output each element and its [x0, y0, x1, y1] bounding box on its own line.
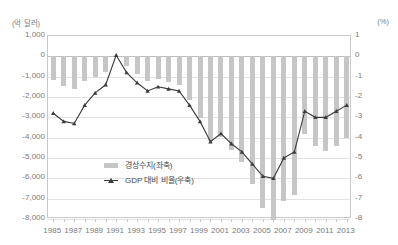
line-marker-triangle — [345, 103, 349, 107]
legend-bar-swatch-icon — [104, 163, 118, 168]
chart-container: (억 달러) (%) 1,0000-1,000-2,000-3,000-4,00… — [0, 0, 398, 245]
legend-item-current-account: 경상수지(좌축) — [104, 158, 194, 173]
x-tick-mark — [252, 219, 253, 222]
plot-area — [47, 35, 351, 218]
x-tick-mark — [179, 219, 180, 222]
line-series-gdp-ratio — [48, 36, 352, 219]
x-tick-mark — [106, 219, 107, 222]
right-axis-tick: -2 — [355, 92, 381, 100]
left-axis-tick: -8,000 — [5, 214, 45, 222]
left-axis-tick: -4,000 — [5, 133, 45, 141]
legend-label-current-account: 경상수지(좌축) — [125, 158, 172, 173]
x-tick-mark — [210, 219, 211, 222]
right-axis-tick: -1 — [355, 72, 381, 80]
right-axis-tick: 1 — [355, 31, 381, 39]
x-tick-mark — [284, 219, 285, 222]
line-marker-triangle — [334, 109, 338, 113]
x-tick-mark — [231, 219, 232, 222]
legend-item-gdp-ratio: GDP 대비 비율(우축) — [104, 173, 194, 188]
x-tick-mark — [315, 219, 316, 222]
line-marker-triangle — [103, 83, 107, 87]
left-axis-tick: -6,000 — [5, 173, 45, 181]
x-tick-mark — [305, 219, 306, 222]
line-marker-triangle — [219, 131, 223, 135]
legend-label-gdp-ratio: GDP 대비 비율(우축) — [125, 173, 194, 188]
right-axis-tick: -8 — [355, 214, 381, 222]
right-axis-tick: 0 — [355, 51, 381, 59]
line-marker-triangle — [51, 111, 55, 115]
x-tick-mark — [336, 219, 337, 222]
left-axis-tick: -5,000 — [5, 153, 45, 161]
x-tick-mark — [242, 219, 243, 222]
left-axis-unit-label: (억 달러) — [12, 17, 40, 28]
x-tick-mark — [263, 219, 264, 222]
x-tick-mark — [273, 219, 274, 222]
x-tick-mark — [85, 219, 86, 222]
chart-legend: 경상수지(좌축) GDP 대비 비율(우축) — [104, 158, 194, 188]
right-axis-tick: -6 — [355, 173, 381, 181]
right-axis-tick: -7 — [355, 194, 381, 202]
x-tick-mark — [74, 219, 75, 222]
left-axis-tick: 1,000 — [5, 31, 45, 39]
gdp-ratio-line — [53, 55, 347, 178]
left-axis-tick: -3,000 — [5, 112, 45, 120]
right-axis-unit-label: (%) — [377, 17, 389, 26]
right-axis-tick: -5 — [355, 153, 381, 161]
x-tick-mark — [137, 219, 138, 222]
legend-line-triangle-swatch-icon — [104, 177, 118, 185]
x-tick-mark — [294, 219, 295, 222]
x-tick-mark — [347, 219, 348, 222]
x-tick-mark — [148, 219, 149, 222]
left-axis-tick: -2,000 — [5, 92, 45, 100]
left-axis-tick: -1,000 — [5, 72, 45, 80]
right-axis-tick: -4 — [355, 133, 381, 141]
x-axis-tick: 2013 — [333, 227, 359, 235]
x-tick-mark — [53, 219, 54, 222]
right-axis-tick: -3 — [355, 112, 381, 120]
x-tick-mark — [158, 219, 159, 222]
x-tick-mark — [95, 219, 96, 222]
line-marker-triangle — [292, 150, 296, 154]
x-tick-mark — [200, 219, 201, 222]
x-tick-mark — [190, 219, 191, 222]
x-tick-mark — [64, 219, 65, 222]
left-axis-tick: 0 — [5, 51, 45, 59]
line-marker-triangle — [303, 109, 307, 113]
x-tick-mark — [116, 219, 117, 222]
line-marker-triangle — [282, 156, 286, 160]
x-tick-mark — [169, 219, 170, 222]
left-axis-tick: -7,000 — [5, 194, 45, 202]
x-tick-mark — [326, 219, 327, 222]
x-tick-mark — [127, 219, 128, 222]
x-tick-mark — [221, 219, 222, 222]
line-marker-triangle — [114, 53, 118, 57]
